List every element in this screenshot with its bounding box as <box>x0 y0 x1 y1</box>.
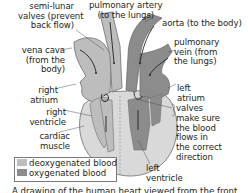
legend-label: oxygenated blood <box>29 168 106 178</box>
figure-caption: A drawing of the human heart viewed from… <box>12 186 237 193</box>
label-cardiac-muscle: cardiac muscle <box>18 132 70 151</box>
label-valves: valves make sure the blood flows in the … <box>176 104 222 163</box>
label-line: direction <box>176 153 222 163</box>
legend-label: deoxygenated blood <box>29 158 117 168</box>
label-right-ventricle: right ventricle <box>18 108 66 127</box>
legend-item-oxygenated: oxygenated blood <box>17 169 106 179</box>
label-semi-lunar-valves: semi-lunar valves (prevent back flow) <box>18 2 74 31</box>
label-line: the lungs) <box>174 57 219 67</box>
label-pulmonary-vein: pulmonary vein (from the lungs) <box>174 38 219 67</box>
label-left-atrium: left atrium <box>177 84 205 103</box>
label-line: atrium <box>177 94 205 104</box>
label-line: back flow) <box>18 21 74 31</box>
label-aorta: aorta (to the body) <box>162 19 242 29</box>
label-line: body) <box>12 65 65 75</box>
label-right-atrium: right atrium <box>18 86 58 105</box>
label-line: (to the lungs) <box>89 11 162 21</box>
label-vena-cava: vena cava (from the body) <box>12 46 65 75</box>
swatch-oxygenated <box>17 169 27 176</box>
pulmonary-vein-shape <box>140 44 172 100</box>
label-line: muscle <box>18 142 70 152</box>
label-line: atrium <box>18 96 58 106</box>
swatch-deoxygenated <box>17 159 27 166</box>
vena-cava-shape <box>74 38 112 102</box>
label-line: ventricle <box>18 118 66 128</box>
label-line: ventricle <box>146 174 183 184</box>
label-pulmonary-artery: pulmonary artery (to the lungs) <box>89 1 162 20</box>
legend: deoxygenated blood oxygenated blood <box>14 157 117 182</box>
label-left-ventricle: left ventricle <box>146 164 183 183</box>
label-line: aorta (to the body) <box>162 19 242 29</box>
